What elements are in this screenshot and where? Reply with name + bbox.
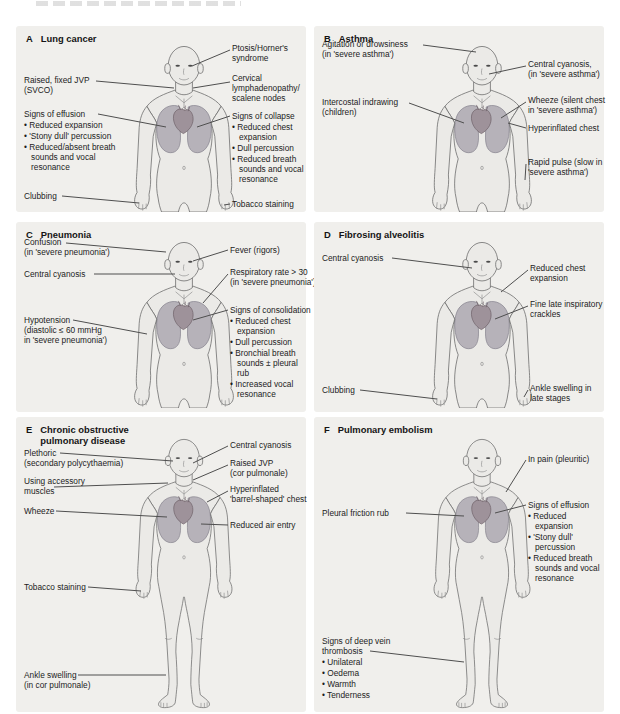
block-heading: Signs of deep vein thrombosis — [322, 637, 426, 657]
label-fever-rigors: Fever (rigors) — [230, 246, 280, 256]
label-fine-inspiratory-crackles: Fine late inspiratory crackles — [530, 300, 602, 320]
bullet-item: • Reduced breath sounds and vocal resona… — [528, 554, 604, 584]
label-tobacco-staining: Tobacco staining — [232, 200, 294, 210]
label-clubbing: Clubbing — [24, 192, 57, 202]
panel-title-text: Lung cancer — [41, 33, 97, 44]
label-cervical-lymphadenopathy: Cervical lymphadenopathy/ scalene nodes — [232, 74, 300, 104]
panel-c-pneumonia: C Pneumonia Confusion (in 'severe pneumo… — [16, 222, 306, 412]
label-reduced-chest-expansion: Reduced chest expansion — [530, 264, 585, 284]
label-respiratory-rate: Respiratory rate > 30 (in 'severe pneumo… — [230, 268, 316, 288]
bullet-list: • Reduced expansion• 'Stony dull' percus… — [24, 121, 132, 173]
cropped-page-header-text — [36, 1, 241, 6]
label-ankle-swelling: Ankle swelling (in cor pulmonale) — [24, 671, 90, 691]
bullet-item: • 'Stony dull' percussion — [24, 132, 132, 142]
panel-title: F Pulmonary embolism — [324, 424, 433, 435]
label-signs-of-consolidation: Signs of consolidation • Reduced chest e… — [230, 306, 308, 400]
panel-title: E Chronic obstructive pulmonary disease — [26, 424, 129, 447]
bullet-item: • Tenderness — [322, 691, 426, 701]
panel-letter: D — [324, 229, 331, 240]
label-hyperinflated-chest: Hyperinflated chest — [528, 124, 599, 134]
label-signs-of-dvt: Signs of deep vein thrombosis • Unilater… — [322, 637, 426, 701]
label-ankle-swelling: Ankle swelling in late stages — [530, 384, 591, 404]
label-raised-fixed-jvp: Raised, fixed JVP (SVCO) — [24, 76, 89, 96]
label-in-pain-pleuritic: In pain (pleuritic) — [528, 455, 589, 465]
bullet-item: • Unilateral — [322, 658, 426, 668]
bullet-item: • Bronchial breath sounds ± pleural rub — [230, 349, 308, 379]
panel-title-text: Pulmonary embolism — [338, 424, 433, 435]
bullet-item: • Reduced expansion — [528, 512, 604, 532]
bullet-item: • Dull percussion — [230, 338, 308, 348]
label-tobacco-staining: Tobacco staining — [24, 583, 86, 593]
label-signs-of-effusion: Signs of effusion • Reduced expansion• '… — [24, 110, 132, 173]
panel-a-lung-cancer: A Lung cancer Raised, fixed JVP (SVCO) S… — [16, 26, 306, 212]
figure-page: A Lung cancer Raised, fixed JVP (SVCO) S… — [0, 0, 620, 714]
panel-letter: E — [26, 424, 32, 447]
panel-f-pulmonary-embolism: F Pulmonary embolism Pleural friction ru… — [314, 417, 604, 712]
panel-letter: A — [26, 33, 33, 44]
label-central-cyanosis: Central cyanosis, (in 'severe asthma') — [528, 60, 600, 80]
label-confusion: Confusion (in 'severe pneumonia') — [24, 238, 110, 258]
label-clubbing: Clubbing — [322, 386, 355, 396]
bullet-list: • Reduced chest expansion• Dull percussi… — [230, 317, 308, 400]
label-agitation-drowsiness: Agitation or drowsiness (in 'severe asth… — [322, 40, 408, 60]
bullet-list: • Reduced chest expansion• Dull percussi… — [232, 123, 306, 185]
label-hypotension: Hypotension (diastolic ≤ 60 mmHg in 'sev… — [24, 316, 107, 346]
label-intercostal-indrawing: Intercostal indrawing (children) — [322, 98, 398, 118]
label-ptosis-horners: Ptosis/Horner's syndrome — [232, 44, 288, 64]
bullet-item: • Dull percussion — [232, 144, 306, 154]
bullet-item: • 'Stony dull' percussion — [528, 533, 604, 553]
bullet-item: • Reduced chest expansion — [232, 123, 306, 143]
bullet-list: • Unilateral• Oedema• Warmth• Tenderness — [322, 658, 426, 701]
panel-title: A Lung cancer — [26, 33, 97, 44]
label-accessory-muscles: Using accessory muscles — [24, 477, 85, 497]
panel-title: D Fibrosing alveolitis — [324, 229, 424, 240]
label-reduced-air-entry: Reduced air entry — [230, 521, 296, 531]
bullet-item: • Increased vocal resonance — [230, 380, 308, 400]
bullet-item: • Reduced expansion — [24, 121, 132, 131]
label-pleural-friction-rub: Pleural friction rub — [322, 509, 389, 519]
label-signs-of-effusion: Signs of effusion • Reduced expansion• '… — [528, 501, 604, 584]
panel-b-asthma: B Asthma Agitation or drowsiness (in 'se… — [314, 26, 604, 212]
block-heading: Signs of collapse — [232, 112, 306, 122]
label-signs-of-collapse: Signs of collapse • Reduced chest expans… — [232, 112, 306, 185]
bullet-item: • Reduced breath sounds and vocal resona… — [232, 155, 306, 185]
label-wheeze-silent-chest: Wheeze (silent chest in 'severe asthma') — [528, 96, 605, 116]
panel-title-text: Fibrosing alveolitis — [339, 229, 424, 240]
bullet-item: • Reduced/absent breath sounds and vocal… — [24, 143, 132, 173]
bullet-item: • Reduced chest expansion — [230, 317, 308, 337]
block-heading: Signs of consolidation — [230, 306, 308, 316]
label-wheeze: Wheeze — [24, 507, 54, 517]
bullet-item: • Warmth — [322, 680, 426, 690]
panel-d-fibrosing-alveolitis: D Fibrosing alveolitis Central cyanosis … — [314, 222, 604, 412]
panel-e-copd: E Chronic obstructive pulmonary disease … — [16, 417, 306, 712]
panel-title-text: Chronic obstructive pulmonary disease — [40, 424, 129, 447]
bullet-list: • Reduced expansion• 'Stony dull' percus… — [528, 512, 604, 584]
label-rapid-pulse: Rapid pulse (slow in 'severe asthma') — [528, 158, 602, 178]
block-heading: Signs of effusion — [24, 110, 132, 120]
label-central-cyanosis: Central cyanosis — [230, 441, 291, 451]
block-heading: Signs of effusion — [528, 501, 604, 511]
panel-letter: F — [324, 424, 330, 435]
label-central-cyanosis: Central cyanosis — [322, 254, 383, 264]
label-raised-jvp: Raised JVP (cor pulmonale) — [230, 459, 288, 479]
label-central-cyanosis: Central cyanosis — [24, 270, 85, 280]
label-barrel-chest: Hyperinflated 'barrel-shaped' chest — [230, 485, 307, 505]
bullet-item: • Oedema — [322, 669, 426, 679]
label-plethoric: Plethoric (secondary polycythaemia) — [24, 449, 123, 469]
